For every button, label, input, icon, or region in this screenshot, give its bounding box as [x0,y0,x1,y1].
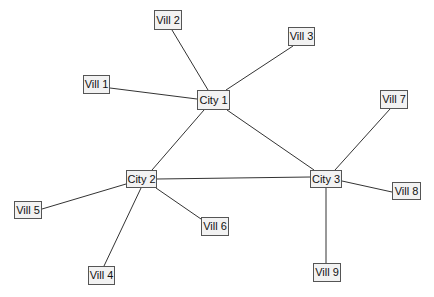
node-city3: City 3 [310,170,342,188]
edge-city2-vill6 [156,188,201,219]
edge-city2-vill4 [104,188,141,266]
node-vill4: Vill 4 [88,266,115,285]
node-vill9: Vill 9 [313,263,341,282]
edge-city3-vill7 [335,109,390,170]
node-vill5: Vill 5 [14,201,42,219]
edge-city3-vill8 [342,181,392,192]
network-diagram: City 1City 2City 3Vill 1Vill 2Vill 3Vill… [0,0,434,297]
edge-city1-city3 [227,110,314,170]
node-city1: City 1 [197,90,230,110]
node-vill8: Vill 8 [392,182,421,200]
edge-vill1-city1 [110,88,197,99]
edge-vill2-city1 [172,30,208,90]
node-vill6: Vill 6 [201,217,229,236]
node-vill1: Vill 1 [83,75,110,94]
node-city2: City 2 [126,170,157,188]
node-vill2: Vill 2 [154,10,182,30]
edge-city2-vill5 [42,184,126,209]
edge-city1-city2 [152,110,204,170]
node-vill7: Vill 7 [380,90,408,109]
edge-vill3-city1 [226,46,293,90]
edge-layer [0,0,434,297]
node-vill3: Vill 3 [288,27,315,46]
edge-city2-city3 [157,177,310,179]
